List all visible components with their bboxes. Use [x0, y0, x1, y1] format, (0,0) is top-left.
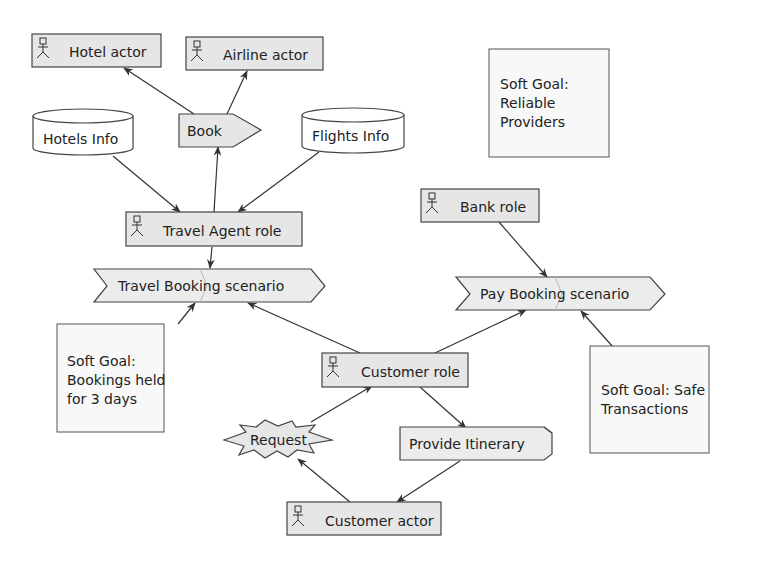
- action-book[interactable]: Book: [179, 114, 261, 147]
- soft-goal-reliable-providers[interactable]: Soft Goal: Reliable Providers: [489, 49, 609, 157]
- edge-customer-actor-to-request: [298, 459, 350, 502]
- edge-agent-to-travel-scenario: [210, 247, 212, 268]
- edge-bank-to-pay-scenario: [499, 222, 547, 277]
- actor-airline[interactable]: Airline actor: [186, 37, 323, 70]
- role-label: Customer role: [361, 364, 460, 380]
- actor-customer[interactable]: Customer actor: [287, 502, 441, 535]
- role-travel-agent[interactable]: Travel Agent role: [126, 212, 302, 246]
- edge-hotels-info-to-agent: [113, 156, 180, 212]
- soft-goal-safe-transactions[interactable]: Soft Goal: Safe Transactions: [590, 346, 710, 453]
- scenario-travel-booking[interactable]: Travel Booking scenario: [94, 269, 325, 302]
- edge-customer-to-pay-scenario: [435, 310, 526, 353]
- role-label: Bank role: [460, 199, 526, 215]
- action-provide-itinerary[interactable]: Provide Itinerary: [400, 427, 552, 460]
- edge-request-to-customer: [311, 386, 372, 422]
- datastore-label: Hotels Info: [43, 131, 118, 147]
- diagram-canvas: Hotel actor Airline actor Hotels Info Fl…: [0, 0, 766, 571]
- edge-customer-to-itinerary: [420, 387, 466, 428]
- edge-agent-to-book: [214, 147, 218, 212]
- role-customer[interactable]: Customer role: [322, 353, 468, 387]
- datastore-hotels-info[interactable]: Hotels Info: [33, 109, 133, 155]
- action-label: Book: [187, 123, 223, 139]
- actor-hotel[interactable]: Hotel actor: [32, 34, 161, 67]
- actor-label: Airline actor: [223, 47, 308, 63]
- edge-flights-info-to-agent: [238, 152, 319, 212]
- actor-label: Customer actor: [325, 513, 434, 529]
- scenario-label: Pay Booking scenario: [480, 286, 629, 302]
- edge-goal-to-pay-scenario: [581, 311, 613, 347]
- edge-itinerary-to-customer-actor: [397, 461, 460, 502]
- scenario-label: Travel Booking scenario: [117, 278, 284, 294]
- edge-book-to-hotel-actor: [124, 68, 194, 114]
- soft-goal-bookings-held[interactable]: Soft Goal: Bookings held for 3 days: [57, 324, 170, 432]
- edge-goal-to-travel-scenario: [178, 303, 195, 324]
- role-bank[interactable]: Bank role: [421, 189, 539, 222]
- edge-book-to-airline-actor: [227, 71, 247, 114]
- event-label: Request: [250, 432, 307, 448]
- edge-customer-to-travel-scenario: [248, 303, 360, 353]
- datastore-flights-info[interactable]: Flights Info: [302, 108, 404, 153]
- actor-label: Hotel actor: [69, 44, 147, 60]
- event-request[interactable]: Request: [224, 420, 332, 458]
- datastore-label: Flights Info: [312, 128, 389, 144]
- role-label: Travel Agent role: [162, 223, 281, 239]
- scenario-pay-booking[interactable]: Pay Booking scenario: [456, 277, 665, 310]
- action-label: Provide Itinerary: [409, 436, 525, 452]
